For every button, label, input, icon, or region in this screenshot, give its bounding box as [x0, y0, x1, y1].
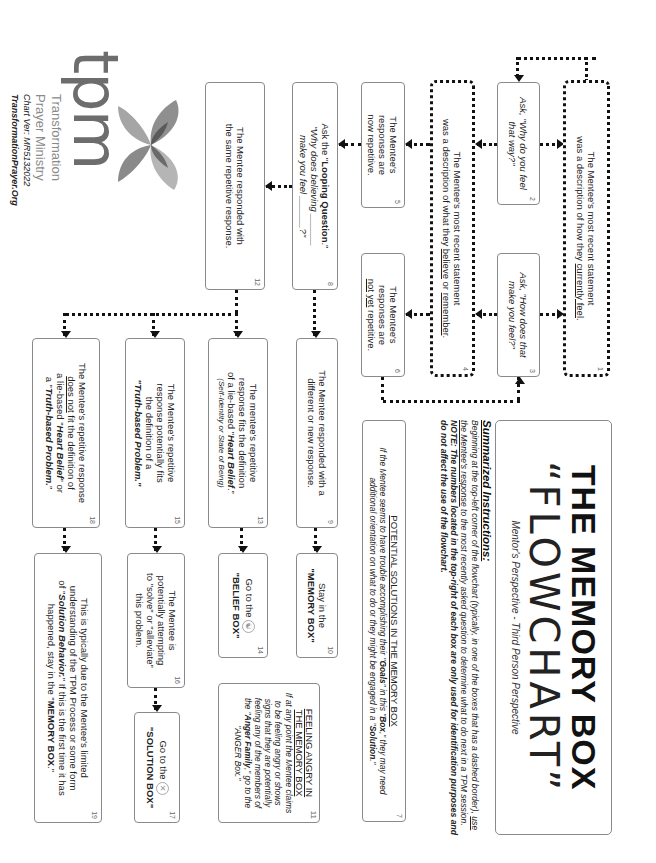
box-text: (Self-Identity or State of Being) [217, 378, 227, 487]
arrow-right-icon [152, 705, 162, 712]
box-text: The Mentee's repetitive [166, 384, 177, 482]
box-text: make you feel?" [508, 281, 519, 349]
solution-box-link: "SOLUTION BOX" [145, 727, 156, 808]
box-text: the same repetitive response. [224, 124, 235, 249]
connector [381, 377, 384, 400]
flow-box-16: 16 The Mentee is potentially attempting … [127, 553, 185, 688]
arrow-right-icon [233, 331, 243, 338]
flow-box-4: 4 The Mentee's most recent statement was… [430, 80, 475, 377]
connector [235, 290, 238, 313]
flow-box-12: 12 The Mentee responded with the same re… [205, 82, 265, 290]
box-heading: THE MEMORY BOX [294, 710, 304, 797]
logo-line-1: Transformation [49, 94, 64, 181]
flow-box-17[interactable]: 17 Go to the✕ "SOLUTION BOX" [134, 712, 180, 823]
box-text: different or new response. [306, 378, 317, 488]
box-number: 19 [89, 811, 100, 819]
connector [518, 57, 587, 60]
box-number: 8 [325, 282, 336, 286]
box-number: 17 [167, 811, 178, 819]
arrow-left-icon [515, 377, 525, 384]
flowchart-page: 1 The Mentee's most recent statement was… [0, 0, 656, 863]
box-text: responses are [378, 115, 389, 175]
box-text: potentially attempting [156, 576, 167, 666]
instructions-heading: Summarized Instructions: [482, 420, 492, 840]
arrow-right-icon [312, 546, 322, 553]
flow-box-8: 8 Ask the "Looping Question." "Why does … [292, 82, 338, 290]
box-text: Stay in the [317, 583, 328, 628]
title-box: THE MEMORY BOX “FLOWCHART” Mentor's Pers… [495, 420, 612, 835]
box-number: 13 [255, 516, 266, 524]
box-text: If the Mentee seems to have trouble acco… [369, 429, 389, 813]
flow-box-14[interactable]: 14 Go to the☯ "BELIEF BOX" [218, 553, 268, 658]
arrow-right-icon [61, 546, 71, 553]
box-number: 15 [172, 516, 183, 524]
flow-box-3: 3 Ask, "How does that make you feel?" [497, 253, 540, 377]
arrow-right-icon [150, 331, 160, 338]
box-number: 9 [325, 520, 336, 524]
flow-box-15: 15 The Mentee's repetitive response pote… [125, 338, 185, 528]
arrow-right-icon [152, 546, 162, 553]
flow-box-13: 13 The mentee's repetitive response fits… [208, 338, 268, 528]
box-text: The Mentee responded with a [317, 370, 328, 496]
box-number: 18 [87, 516, 98, 524]
box-number: 14 [255, 646, 266, 654]
chart-version: Chart Ver: MR5132022 [22, 94, 32, 186]
arrow-right-icon [61, 331, 71, 338]
logo-line-2: Prayer Ministry [33, 94, 48, 181]
box-text: The Mentee responded with [235, 127, 246, 245]
box-number: 2 [527, 197, 538, 201]
arrow-down-icon [265, 181, 272, 191]
perspective-label: Mentor's Perspective - Third Person Pers… [510, 421, 521, 834]
box-text: understanding of the TPM Process or some… [68, 586, 79, 791]
box-text: a lie-based "Heart Belief" or [55, 373, 66, 493]
arrow-down-icon [475, 139, 482, 149]
arrow-right-icon [311, 331, 321, 338]
arrow-down-icon [475, 309, 482, 319]
box-number: 4 [460, 367, 471, 371]
box-text: make you feel ______?" [299, 135, 310, 237]
arrow-down-icon [338, 139, 345, 149]
box-number: 10 [325, 646, 336, 654]
solution-box-icon: ✕ [156, 782, 169, 795]
box-text: Ask, "Why do you feel [519, 97, 530, 190]
flow-box-6: 6 The Mentee's responses are not yet rep… [361, 253, 405, 377]
box-text: a "Truth-based Problem." [44, 377, 55, 490]
box-text: If at any point the Mentee claims to be … [232, 692, 293, 814]
connector [383, 400, 520, 403]
box-text: was a description of what they believe o… [442, 119, 453, 338]
website-link[interactable]: TransformationPrayer.Org [10, 94, 20, 206]
box-text: not yet repetitive. [367, 279, 378, 351]
box-text: The Mentee's repetitive response [77, 363, 88, 503]
box-text: "Truth-based Problem." [133, 379, 144, 486]
box-text: "Why does believing ______ [310, 126, 321, 246]
box-text: this problem. [134, 593, 145, 647]
box-number: 12 [252, 278, 263, 286]
box-text: The Mentee is [167, 590, 178, 650]
box-number: 1 [595, 367, 606, 371]
box-heading: POTENTIAL SOLUTIONS IN THE MEMORY BOX [390, 515, 400, 726]
box-text: happened, stay in the "MEMORY BOX." [46, 604, 57, 772]
flow-box-10[interactable]: 10 Stay in the "MEMORY BOX" [296, 553, 338, 658]
connector [585, 57, 588, 82]
page-title: THE MEMORY BOX [565, 421, 603, 834]
flow-box-5: 5 The Mentee's responses are now repetit… [361, 82, 405, 208]
box-text: now repetitive. [367, 114, 378, 175]
box-heading: FEELING ANGRY IN [304, 709, 314, 797]
box-text: Go to the✕ [156, 740, 169, 794]
arrow-down-icon [405, 309, 412, 319]
flow-box-9: 9 The Mentee responded with a different … [296, 338, 338, 528]
connector [313, 290, 316, 336]
box-text: The Mentee's most recent statement [587, 152, 598, 306]
box-text: The Mentee's most recent statement [453, 152, 464, 306]
box-text: This is typically due to the Mentee's li… [79, 598, 90, 778]
instructions: Summarized Instructions: Beginning at th… [439, 420, 492, 840]
memory-box-link: "MEMORY BOX" [306, 568, 317, 642]
flow-box-2: 2 Ask, "Why do you feel that way?" [497, 82, 540, 205]
box-text: The Mentee's [389, 286, 400, 343]
box-number: 7 [394, 814, 404, 818]
box-text: The Mentee's [389, 116, 400, 173]
box-text: does not fit the definition of [66, 376, 77, 490]
arrow-right-icon [238, 546, 248, 553]
box-number: 16 [172, 676, 183, 684]
box-text: Go to the☯ [242, 578, 255, 632]
